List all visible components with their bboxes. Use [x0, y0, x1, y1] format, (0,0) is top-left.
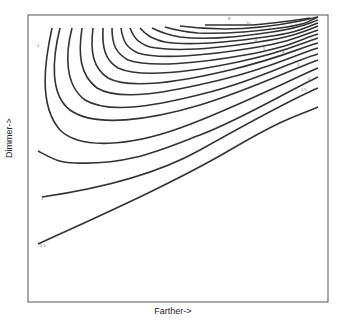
contour-plot: 1.5 1 1 1.5 2 3 4 5 6 7 8 10	[0, 0, 346, 323]
svg-text:3: 3	[297, 62, 300, 67]
svg-text:1: 1	[37, 43, 40, 48]
y-axis-label: Dimmer->	[4, 118, 14, 158]
contour-labels: 1.5 1 1 1.5 2 3 4 5 6 7 8 10	[37, 16, 311, 248]
contour-line	[38, 107, 318, 244]
svg-text:10: 10	[246, 21, 251, 26]
x-axis-label: Farther->	[0, 306, 346, 316]
contour-lines	[38, 17, 318, 244]
svg-text:1.5: 1.5	[301, 87, 307, 92]
svg-text:8: 8	[228, 16, 231, 21]
svg-text:1.5: 1.5	[40, 243, 46, 248]
plot-frame	[28, 15, 328, 302]
contour-line	[45, 28, 318, 143]
